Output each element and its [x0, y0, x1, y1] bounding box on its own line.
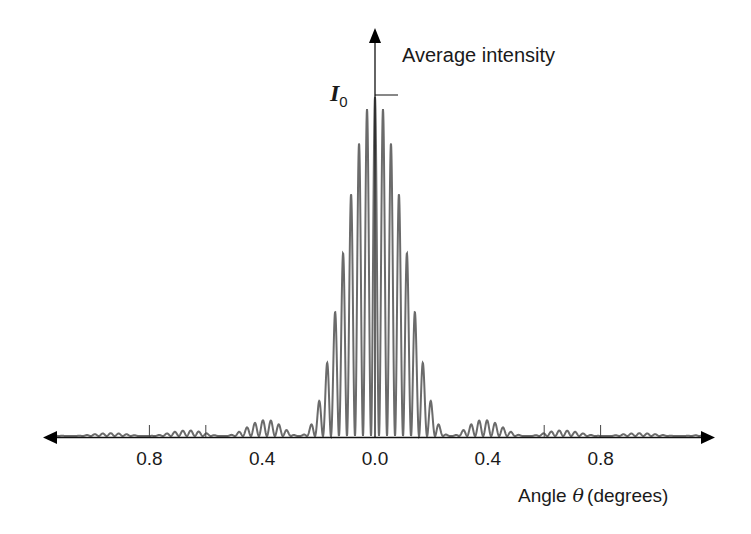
x-tick-label: 0.8: [587, 448, 613, 470]
x-tick-label: 0.0: [362, 448, 388, 470]
x-tick-label: 0.8: [136, 448, 162, 470]
x-tick-label: 0.4: [475, 448, 501, 470]
peak-symbol: I: [330, 80, 339, 106]
y-axis-label: Average intensity: [402, 44, 555, 67]
curve-group: [50, 97, 702, 436]
peak-subscript: 0: [339, 93, 347, 110]
x-axis-left-arrow-icon: [43, 431, 57, 444]
x-axis-label-prefix: Angle: [518, 485, 567, 506]
x-axis-right-arrow-icon: [701, 431, 715, 444]
theta-symbol: θ: [573, 484, 584, 506]
y-axis-up-arrow-icon: [369, 28, 381, 43]
x-axis-label: Angleθ(degrees): [518, 484, 668, 507]
intensity-curve: [50, 97, 702, 436]
peak-intensity-label: I0: [330, 80, 348, 110]
x-axis-label-suffix: (degrees): [587, 485, 668, 506]
x-tick-label: 0.4: [249, 448, 275, 470]
